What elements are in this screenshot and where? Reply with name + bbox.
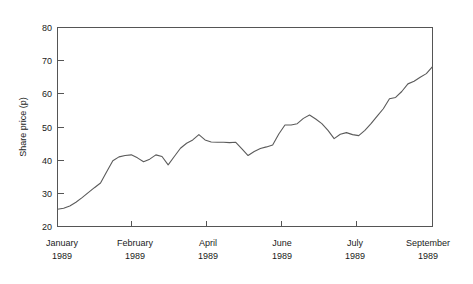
- x-tick-label-september-year: 1989: [418, 251, 438, 261]
- x-tick-label-july-year: 1989: [345, 251, 365, 261]
- y-tick-label-70: 70: [42, 56, 52, 66]
- x-tick-label-june-month: June: [272, 238, 292, 248]
- x-tick-label-january-month: January: [46, 238, 79, 248]
- x-tick-label-september-month: September: [406, 238, 450, 248]
- y-axis-title: Share price (p): [18, 97, 28, 157]
- x-axis-ticks: [132, 221, 357, 227]
- x-axis-tick-labels: January 1989 February 1989 April 1989 Ju…: [46, 238, 450, 261]
- y-tick-label-20: 20: [42, 222, 52, 232]
- x-tick-label-april-month: April: [199, 238, 217, 248]
- y-axis-ticks: [58, 28, 64, 227]
- chart-figure: 80 70 60 50 40 30 20 Share price (p) Jan…: [0, 0, 473, 284]
- plot-frame: [57, 27, 433, 227]
- y-tick-label-40: 40: [42, 156, 52, 166]
- y-tick-label-80: 80: [42, 23, 52, 33]
- x-tick-label-june-year: 1989: [272, 251, 292, 261]
- x-tick-label-january-year: 1989: [52, 251, 72, 261]
- y-tick-label-60: 60: [42, 89, 52, 99]
- x-tick-label-july-month: July: [347, 238, 364, 248]
- y-axis-tick-labels: 80 70 60 50 40 30 20: [42, 23, 52, 232]
- x-tick-label-april-year: 1989: [198, 251, 218, 261]
- x-tick-label-february-month: February: [117, 238, 154, 248]
- share-price-line-chart: 80 70 60 50 40 30 20 Share price (p) Jan…: [0, 0, 473, 284]
- y-tick-label-30: 30: [42, 189, 52, 199]
- x-tick-label-february-year: 1989: [125, 251, 145, 261]
- share-price-series-line: [58, 67, 433, 210]
- y-tick-label-50: 50: [42, 123, 52, 133]
